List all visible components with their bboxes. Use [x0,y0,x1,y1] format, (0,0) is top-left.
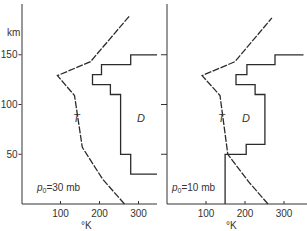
y-tick-label: 50 [6,149,18,160]
left-t-label: T [73,112,81,124]
right-pressure-annotation: p0=10 mb [171,182,216,194]
left-panel: 10020030050100150 km °K T D p0=30 mb [1,4,157,231]
y-tick-label: 150 [1,49,18,60]
left-pressure-annotation: p0=30 mb [36,182,81,194]
x-tick-label: 200 [91,208,108,219]
left-temperature-curve [57,16,129,204]
right-panel: 100200300 °K T D p0=10 mb [161,4,307,231]
left-d-curve [93,55,158,174]
right-temperature-curve [202,18,272,204]
x-tick-label: 100 [198,208,215,219]
x-tick-label: 300 [130,208,147,219]
chart-figure: 10020030050100150 km °K T D p0=30 mb 100… [0,0,307,231]
right-x-unit-label: °K [226,220,237,231]
y-tick-label: 100 [1,99,18,110]
right-d-curve [225,55,303,204]
right-d-label: D [242,112,250,124]
x-tick-label: 100 [52,208,69,219]
x-tick-label: 200 [237,208,254,219]
x-tick-label: 300 [276,208,293,219]
left-d-label: D [137,112,145,124]
right-t-label: T [218,112,226,124]
left-x-unit-label: °K [81,220,92,231]
y-unit-label: km [7,27,20,38]
